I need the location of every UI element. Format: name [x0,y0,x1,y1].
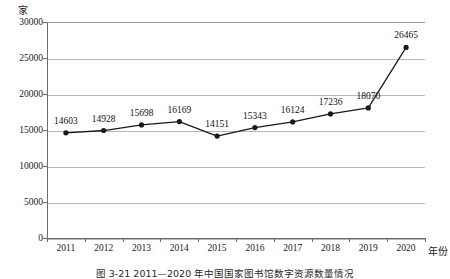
data-point-label: 17236 [319,97,343,107]
gridline [48,167,425,168]
data-point-label: 14603 [54,116,78,126]
x-axis-tick-mark [123,238,124,242]
x-axis-tick-mark [160,238,161,242]
y-axis-tick-label: 25000 [19,53,43,63]
x-axis-tick-label: 2017 [283,243,302,253]
y-axis-tick-label: 10000 [19,161,43,171]
x-axis-tick-mark [312,238,313,242]
data-point-label: 16124 [281,105,305,115]
data-point-label: 16169 [167,105,191,115]
x-axis-tick-mark [387,238,388,242]
x-axis-tick-label: 2012 [94,243,113,253]
y-axis-tick-label: 20000 [19,89,43,99]
x-axis-tick-label: 2014 [170,243,189,253]
x-axis-tick-mark [85,238,86,242]
x-axis-tick-mark [236,238,237,242]
figure-container: 家 300002500020000150001000050000 2011201… [0,0,450,279]
gridline [48,203,425,204]
x-axis-tick-label: 2019 [359,243,378,253]
y-axis-tick-labels: 300002500020000150001000050000 [0,0,43,279]
x-axis-tick-mark [274,238,275,242]
x-axis-tick-label: 2020 [397,243,416,253]
y-axis-tick-label: 5000 [24,197,43,207]
x-axis-tick-label: 2015 [208,243,227,253]
plot-area [47,22,425,238]
x-axis-tick-mark [425,238,426,242]
x-axis-tick-mark [198,238,199,242]
gridline [48,59,425,60]
data-point-label: 14928 [92,114,116,124]
x-axis-tick-mark [47,238,48,242]
x-axis-tick-label: 2011 [57,243,76,253]
data-point-label: 15698 [130,108,154,118]
y-axis-tick-label: 30000 [19,17,43,27]
data-point-label: 26465 [394,30,418,40]
x-axis-tick-label: 2018 [321,243,340,253]
y-axis-tick-label: 15000 [19,125,43,135]
gridline [48,131,425,132]
data-point-label: 15343 [243,111,267,121]
gridlines-group [48,23,425,238]
data-point-label: 18070 [356,91,380,101]
figure-caption: 图 3-21 2011—2020 年中国国家图书馆数字资源数量情况 [0,266,450,279]
data-point-label: 14151 [205,119,229,129]
x-axis-tick-label: 2013 [132,243,151,253]
x-axis-tick-mark [349,238,350,242]
x-axis-tick-label: 2016 [245,243,264,253]
x-axis-unit-label: 年份 [428,243,448,258]
